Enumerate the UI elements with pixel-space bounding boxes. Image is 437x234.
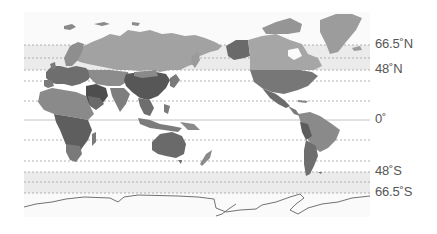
label-arctic-circle: 66.5˚N xyxy=(375,37,413,50)
label-antarctic-circle: 66.5˚S xyxy=(375,185,412,198)
antarctic-band xyxy=(24,172,370,193)
label-48-north: 48˚N xyxy=(375,62,402,75)
world-map xyxy=(0,0,437,234)
label-equator: 0˚ xyxy=(375,112,386,125)
label-48-south: 48˚S xyxy=(375,164,402,177)
